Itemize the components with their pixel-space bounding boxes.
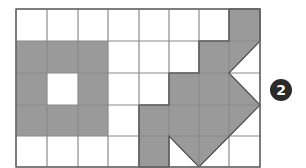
grid-figure (0, 0, 306, 168)
number-badge: 2 (270, 79, 292, 101)
shaded-cell (47, 41, 78, 73)
shaded-cell (78, 105, 108, 136)
badge-label: 2 (276, 82, 286, 98)
shaded-cell (16, 105, 47, 136)
shaded-shapes (16, 9, 260, 167)
shaded-cell (16, 73, 47, 105)
shaded-cell (47, 105, 78, 136)
shaded-cell (16, 41, 47, 73)
shaded-cell (78, 73, 108, 105)
shaded-cell (78, 41, 108, 73)
